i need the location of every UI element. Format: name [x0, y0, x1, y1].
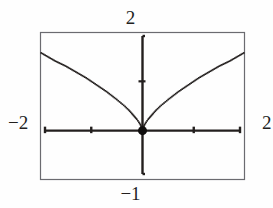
- graph-figure: 2 −1 −2 2: [0, 0, 273, 208]
- curve-pixel: [145, 121, 147, 123]
- axes-group: [44, 36, 241, 174]
- curve-pixel: [146, 120, 148, 122]
- curve-pixel: [136, 118, 138, 120]
- curve-pixel: [137, 120, 139, 122]
- plot-canvas: [0, 0, 273, 208]
- markers-group: [138, 126, 147, 135]
- curve-pixel: [243, 52, 245, 54]
- origin-point: [138, 126, 147, 135]
